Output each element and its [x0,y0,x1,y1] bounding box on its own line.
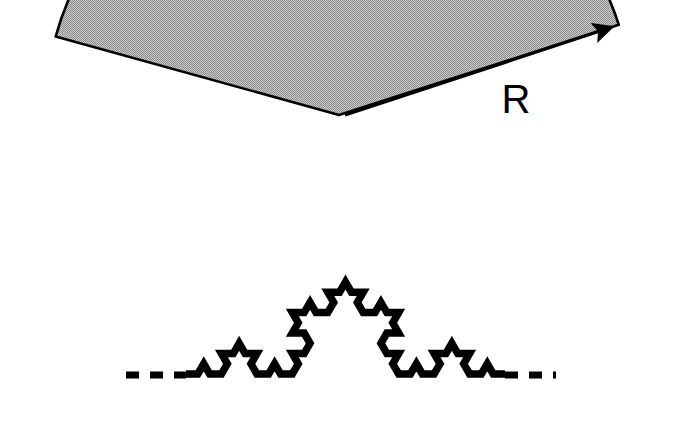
figure-root: R [0,0,676,430]
radius-label-text: R [502,79,531,119]
radius-label-box: R [494,78,538,120]
koch-curve [186,282,505,374]
geometric-figure [0,0,676,430]
diagram-scene [56,0,619,375]
